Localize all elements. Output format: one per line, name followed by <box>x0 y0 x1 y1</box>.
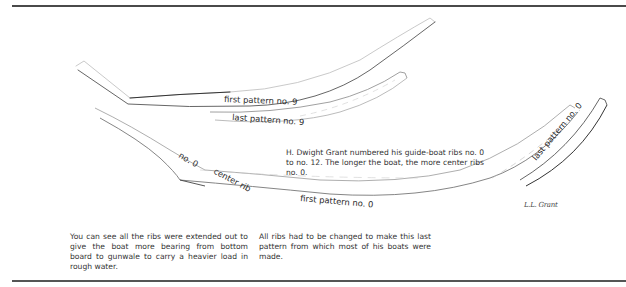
numbering-note: H. Dwight Grant numbered his guide-boat … <box>286 148 484 178</box>
caption-right: All ribs had to be changed to make this … <box>259 232 431 262</box>
artist-signature: L.L. Grant <box>524 201 557 209</box>
rib-first-pattern-9 <box>76 18 435 107</box>
bottom-rule <box>12 280 626 282</box>
label-last-pattern-0: last pattern no. 0 <box>530 101 584 163</box>
label-center-rib: center rib <box>212 166 253 194</box>
label-first-pattern-9: first pattern no. 9 <box>224 94 298 107</box>
label-last-pattern-9: last pattern no. 9 <box>232 112 305 127</box>
label-no-0: no. 0 <box>177 150 200 169</box>
caption-left: You can see all the ribs were extended o… <box>70 232 248 272</box>
